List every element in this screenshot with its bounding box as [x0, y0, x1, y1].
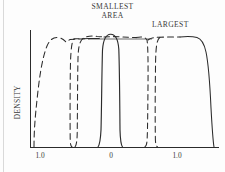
curve-widest-right-rise — [148, 37, 180, 40]
curve-medium-left — [75, 36, 104, 147]
x-tick-label-right: 1.0 — [162, 151, 192, 160]
x-tick-label-left: 1.0 — [25, 151, 55, 160]
y-axis-label: DENSITY — [14, 74, 23, 130]
curve-widest-right-left-edge — [155, 37, 160, 147]
x-tick-label-center: 0 — [96, 151, 126, 160]
curve-widest-right-fall — [180, 37, 214, 147]
curve-medium-right — [136, 37, 148, 147]
curve-plateau-bridge — [104, 37, 136, 38]
figure-title: SMALLEST AREA — [0, 3, 225, 20]
curve-widest-left — [34, 37, 99, 147]
density-plot-canvas — [0, 0, 225, 172]
curve-widest-left-fall — [70, 38, 99, 147]
figure-title-line-2: AREA — [0, 12, 225, 21]
curve-narrow-center — [98, 34, 123, 147]
density-comparison-figure: SMALLEST AREA LARGEST DENSITY 1.0 0 1.0 — [0, 0, 225, 172]
annotation-largest: LARGEST — [152, 21, 189, 30]
